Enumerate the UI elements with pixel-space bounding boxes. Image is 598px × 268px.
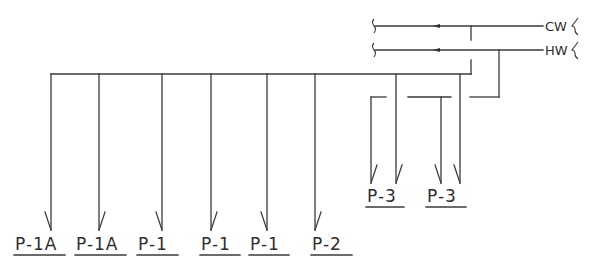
fixture-label: P-1A <box>76 234 118 254</box>
hw-label: HW <box>545 43 568 58</box>
fixture-label: P-1A <box>15 234 57 254</box>
fixture-label: P-3 <box>427 186 457 206</box>
fixture-label: P-2 <box>312 234 342 254</box>
fixture-labels: P-1A P-1A P-1 P-1 P-1 P-2 P-3 P-3 <box>14 186 466 255</box>
pipe-break-icon <box>572 18 578 35</box>
fixture-label: P-1 <box>201 234 231 254</box>
flow-arrow-icon <box>433 48 440 52</box>
fixture-label: P-1 <box>138 234 168 254</box>
fixture-label: P-3 <box>367 186 397 206</box>
plumbing-riser-diagram: CW HW <box>0 0 598 268</box>
fixture-label: P-1 <box>250 234 280 254</box>
flow-arrow-icon <box>433 24 440 28</box>
cold-water-supply-line: CW <box>373 18 579 35</box>
pipe-break-icon <box>572 42 578 59</box>
p3-fixture-drops <box>371 74 460 183</box>
hot-water-supply-line: HW <box>373 42 579 59</box>
cw-label: CW <box>545 19 567 34</box>
fixture-drops <box>45 74 321 230</box>
